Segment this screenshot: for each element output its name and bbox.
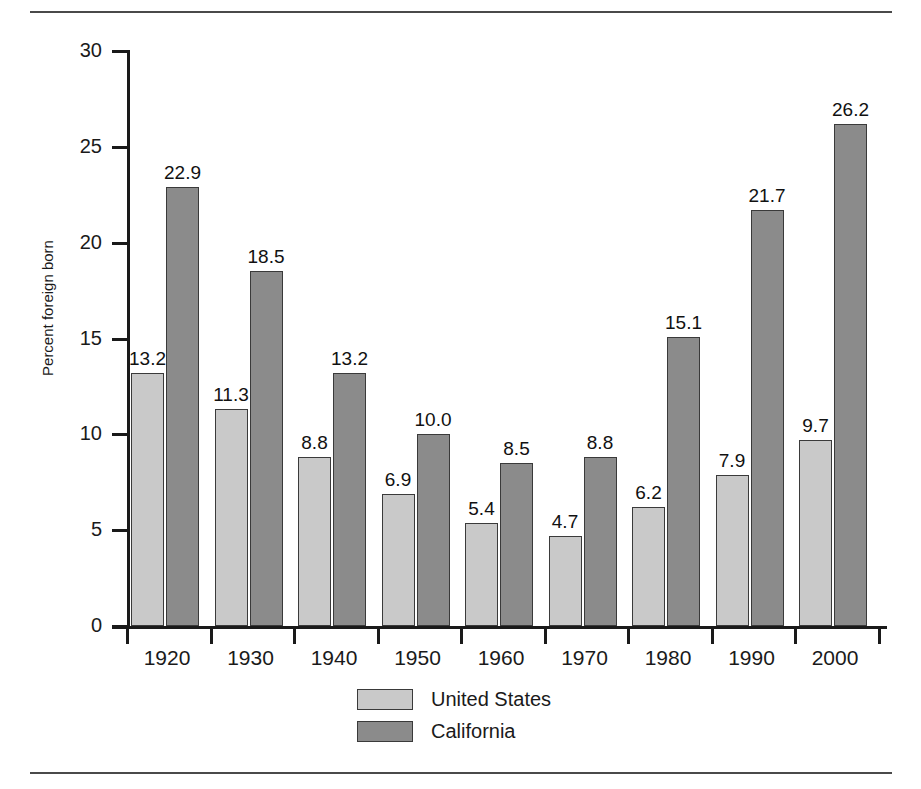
bar-1930-california xyxy=(250,271,283,626)
legend-swatch-united-states xyxy=(357,689,413,710)
y-axis-tick-label-text: 5 xyxy=(56,519,102,539)
bar-value-label: 18.5 xyxy=(236,247,296,267)
y-axis-tick-label: 10 xyxy=(56,423,102,443)
bar-1980-united-states xyxy=(632,507,665,626)
y-axis-tick xyxy=(112,338,130,341)
y-axis-tick-label: 20 xyxy=(56,232,102,252)
y-axis-tick-label-text: 20 xyxy=(56,232,102,252)
bar-2000-united-states xyxy=(799,440,832,626)
legend-swatch-california xyxy=(357,721,413,742)
bar-1990-united-states xyxy=(716,475,749,626)
legend-label-united-states: United States xyxy=(431,689,551,710)
legend-label-california: California xyxy=(431,721,515,742)
x-axis-tick xyxy=(878,629,881,644)
x-axis-label-2000: 2000 xyxy=(790,646,880,670)
x-axis-tick xyxy=(627,629,630,644)
bar-1970-california xyxy=(584,457,617,626)
bar-1950-united-states xyxy=(382,494,415,626)
x-axis-line xyxy=(112,626,887,629)
x-axis-label-1980: 1980 xyxy=(623,646,713,670)
y-axis-tick-label-text: 15 xyxy=(56,328,102,348)
y-axis-title: Percent foreign born xyxy=(40,198,56,418)
x-axis-label-1960: 1960 xyxy=(456,646,546,670)
bar-value-label: 21.7 xyxy=(737,186,797,206)
bar-value-label: 8.8 xyxy=(570,433,630,453)
bar-value-label: 8.5 xyxy=(487,439,547,459)
y-axis-tick xyxy=(112,625,130,628)
x-axis-tick xyxy=(794,629,797,644)
y-axis-tick-label: 25 xyxy=(56,136,102,156)
bar-value-label: 15.1 xyxy=(654,313,714,333)
bar-1940-california xyxy=(333,373,366,626)
bar-value-label: 26.2 xyxy=(821,100,881,120)
y-axis-tick-label: 30 xyxy=(56,40,102,60)
bar-1970-united-states xyxy=(549,536,582,626)
legend-item-united-states: United States xyxy=(357,686,551,713)
bar-2000-california xyxy=(834,124,867,626)
legend-item-california: California xyxy=(357,718,551,745)
y-axis-tick-label: 15 xyxy=(56,328,102,348)
x-axis-tick xyxy=(377,629,380,644)
x-axis-tick xyxy=(460,629,463,644)
bar-1960-united-states xyxy=(465,523,498,627)
x-axis-label-1930: 1930 xyxy=(206,646,296,670)
y-axis-tick-label-text: 10 xyxy=(56,423,102,443)
x-axis-label-1940: 1940 xyxy=(289,646,379,670)
bar-1950-california xyxy=(417,434,450,626)
y-axis-tick xyxy=(112,242,130,245)
x-axis-label-1950: 1950 xyxy=(373,646,463,670)
x-axis-label-1920: 1920 xyxy=(122,646,212,670)
y-axis-tick-label-text: 30 xyxy=(56,40,102,60)
y-axis-tick-label: 5 xyxy=(56,519,102,539)
figure-container: Percent foreign born 051015202530 192019… xyxy=(0,0,921,789)
y-axis-tick xyxy=(112,433,130,436)
x-axis-tick xyxy=(711,629,714,644)
bar-value-label: 10.0 xyxy=(403,410,463,430)
bar-value-label: 13.2 xyxy=(320,349,380,369)
bar-1980-california xyxy=(667,337,700,626)
bar-1920-united-states xyxy=(131,373,164,626)
bar-1960-california xyxy=(500,463,533,626)
y-axis-tick-label: 0 xyxy=(56,615,102,635)
x-axis-label-1970: 1970 xyxy=(540,646,630,670)
y-axis-tick xyxy=(112,146,130,149)
x-axis-tick xyxy=(293,629,296,644)
bar-1920-california xyxy=(166,187,199,626)
bar-1930-united-states xyxy=(215,409,248,626)
bar-1940-united-states xyxy=(298,457,331,626)
x-axis-tick xyxy=(126,629,129,644)
x-axis-tick xyxy=(210,629,213,644)
bar-value-label: 22.9 xyxy=(153,163,213,183)
bottom-rule xyxy=(30,772,892,774)
bar-chart-plot: Percent foreign born 051015202530 192019… xyxy=(0,0,921,700)
y-axis-tick xyxy=(112,50,130,53)
x-axis-tick xyxy=(544,629,547,644)
y-axis-tick-label-text: 0 xyxy=(56,615,102,635)
y-axis-tick xyxy=(112,529,130,532)
x-axis-label-1990: 1990 xyxy=(707,646,797,670)
y-axis-tick-label-text: 25 xyxy=(56,136,102,156)
bar-1990-california xyxy=(751,210,784,626)
chart-legend: United States California xyxy=(357,686,551,750)
